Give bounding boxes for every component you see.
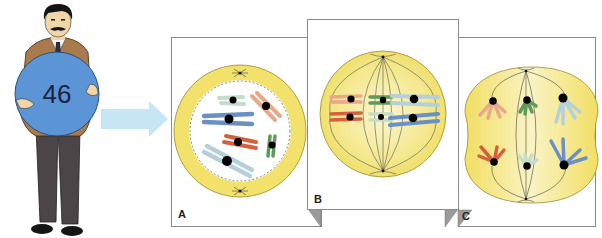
person-illustration <box>15 4 99 236</box>
panel-c-label: C <box>462 210 470 222</box>
panel-c <box>458 38 598 228</box>
panel-b <box>308 20 459 228</box>
chromosome-count-label: 46 <box>27 79 87 110</box>
arrow-right-icon <box>101 101 168 137</box>
panel-a-label: A <box>178 208 186 220</box>
mitosis-figure <box>0 0 602 238</box>
panel-b-label: B <box>314 193 322 205</box>
panel-a <box>172 38 322 227</box>
